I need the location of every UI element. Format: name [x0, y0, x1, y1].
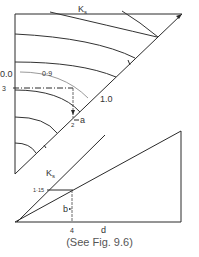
- label-ks-upper: Ks: [78, 4, 87, 15]
- figure-caption: (See Fig. 9.6): [0, 236, 199, 248]
- arc-4: [15, 90, 80, 112]
- label-1-0: 1.0: [100, 94, 113, 104]
- arc-3: [15, 62, 116, 77]
- label-ks-lower: Ks: [46, 168, 55, 179]
- arc-5: [15, 117, 57, 133]
- nomogram-diagram: Ks 0.0 0·9 1.0 3 2 a Ks 1·15 b 4 d: [0, 0, 199, 257]
- label-a: a: [80, 115, 85, 125]
- label-1-15: 1·15: [33, 187, 44, 193]
- label-0-9: 0·9: [42, 70, 52, 77]
- arc-09: [20, 72, 88, 98]
- label-d: d: [101, 225, 106, 235]
- label-b: b: [63, 204, 68, 214]
- hypotenuse-line: [15, 131, 181, 222]
- arrow-b-icon: [69, 208, 72, 210]
- diagonal-axis-line: [15, 14, 182, 174]
- arrow-down-icon: [71, 110, 75, 115]
- arc-6: [15, 143, 36, 153]
- arc-1: [50, 12, 157, 37]
- arc-2: [15, 34, 135, 58]
- label-4: 4: [70, 227, 74, 234]
- label-2: 2: [71, 122, 75, 128]
- label-0-0: 0.0: [0, 69, 13, 79]
- label-3: 3: [2, 85, 6, 92]
- ks-line: [17, 135, 105, 222]
